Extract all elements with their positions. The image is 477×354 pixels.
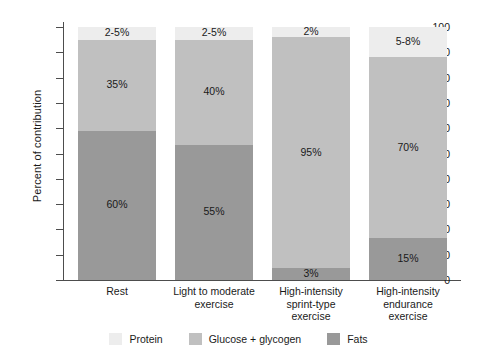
legend-label: Protein (129, 333, 162, 345)
bar-segment-value-label: 55% (175, 206, 253, 217)
y-axis-tick (56, 27, 63, 28)
bar-segment-fats[interactable]: 55% (175, 145, 253, 280)
bar-segment-glucose-glycogen[interactable]: 70% (369, 57, 447, 238)
bar-segment-value-label: 60% (78, 199, 156, 210)
legend-item-fats[interactable]: Fats (327, 333, 367, 345)
bar-segment-fats[interactable]: 3% (272, 268, 350, 280)
bar-segment-glucose-glycogen[interactable]: 35% (78, 40, 156, 131)
bar-segment-protein[interactable]: 2% (272, 27, 350, 37)
y-axis-tick (56, 204, 63, 205)
y-axis-tick (56, 280, 63, 281)
bar-segment-value-label: 2-5% (78, 27, 156, 38)
bar-segment-value-label: 2% (272, 26, 350, 37)
bar-segment-glucose-glycogen[interactable]: 40% (175, 40, 253, 145)
bar-segment-fats[interactable]: 15% (369, 238, 447, 280)
y-axis-tick (56, 154, 63, 155)
x-axis-line (63, 280, 461, 281)
bar-segment-protein[interactable]: 5-8% (369, 27, 447, 57)
stacked-bar-chart: Percent of contribution 0102030405060708… (0, 0, 477, 354)
bar-segment-value-label: 2-5% (175, 27, 253, 38)
x-axis-category-line: High-intensity (349, 285, 467, 298)
bar-segment-value-label: 40% (175, 86, 253, 97)
x-axis-category-label: High-intensityenduranceexercise (349, 285, 467, 323)
plot-area: 0102030405060708090100 60%35%2-5%55%40%2… (63, 27, 460, 280)
bar-2[interactable]: 55%40%2-5% (175, 27, 253, 280)
chart-legend: ProteinGlucose + glycogenFats (0, 330, 477, 348)
y-axis-tick (56, 255, 63, 256)
bar-segment-value-label: 3% (272, 268, 350, 279)
legend-swatch (189, 333, 202, 345)
bar-segment-value-label: 15% (369, 253, 447, 264)
bar-segment-fats[interactable]: 60% (78, 131, 156, 280)
y-axis-tick (56, 103, 63, 104)
y-axis-tick (56, 78, 63, 79)
bar-segment-value-label: 35% (78, 79, 156, 90)
bar-4[interactable]: 15%70%5-8% (369, 27, 447, 280)
legend-item-glucose-glycogen[interactable]: Glucose + glycogen (189, 333, 302, 345)
x-axis-category-line: exercise (349, 310, 467, 323)
legend-label: Glucose + glycogen (209, 333, 302, 345)
y-axis-tick (56, 179, 63, 180)
bar-segment-protein[interactable]: 2-5% (78, 27, 156, 40)
bar-segment-protein[interactable]: 2-5% (175, 27, 253, 40)
legend-label: Fats (347, 333, 367, 345)
bar-segment-value-label: 5-8% (369, 36, 447, 47)
bar-segment-value-label: 70% (369, 142, 447, 153)
legend-swatch (327, 333, 340, 345)
bar-segment-glucose-glycogen[interactable]: 95% (272, 37, 350, 268)
bar-segment-value-label: 95% (272, 147, 350, 158)
x-axis-category-line: endurance (349, 298, 467, 311)
legend-item-protein[interactable]: Protein (109, 333, 162, 345)
y-axis-tick (56, 52, 63, 53)
bar-1[interactable]: 60%35%2-5% (78, 27, 156, 280)
legend-swatch (109, 333, 122, 345)
y-axis-title: Percent of contribution (31, 26, 43, 266)
y-axis-tick (56, 229, 63, 230)
bar-3[interactable]: 3%95%2% (272, 27, 350, 280)
y-axis-tick (56, 128, 63, 129)
